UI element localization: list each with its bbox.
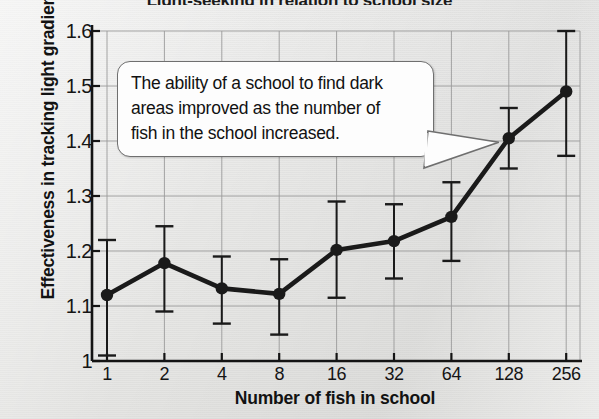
data-point-marker [330, 244, 342, 256]
data-point-marker [273, 288, 285, 300]
callout-line-2: areas improved as the number of [131, 96, 421, 121]
data-point-marker [158, 257, 170, 269]
data-point-marker [216, 282, 228, 294]
data-point-marker [560, 85, 572, 97]
data-point-marker [503, 132, 515, 144]
chart-figure: Light-seeking in relation to school size… [0, 0, 599, 419]
annotation-callout: The ability of a school to find dark are… [117, 61, 434, 157]
data-point-marker [388, 235, 400, 247]
callout-line-3: fish in the school increased. [131, 121, 421, 146]
data-point-marker [445, 211, 457, 223]
data-point-marker [101, 289, 113, 301]
callout-line-1: The ability of a school to find dark [131, 71, 421, 96]
